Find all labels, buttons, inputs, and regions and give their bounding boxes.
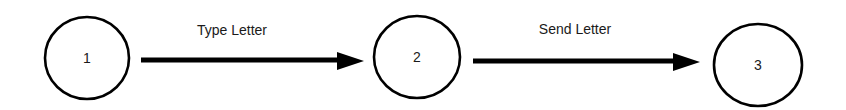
node-2-label: 2 — [413, 49, 421, 65]
node-1: 1 — [45, 17, 129, 99]
edge-label-type-letter: Type Letter — [197, 22, 267, 38]
edge-label-send-letter: Send Letter — [539, 21, 612, 37]
arrow-shaft — [141, 58, 339, 63]
arrowhead-icon — [337, 52, 364, 70]
node-2: 2 — [374, 16, 460, 98]
node-3-label: 3 — [754, 57, 762, 73]
state-diagram: 1 Type Letter 2 Send Letter 3 — [0, 0, 846, 110]
arrow-shaft — [473, 59, 675, 64]
node-3: 3 — [714, 24, 802, 106]
node-1-label: 1 — [83, 50, 91, 66]
arrowhead-icon — [673, 53, 700, 71]
edge-type-letter: Type Letter — [141, 22, 364, 70]
edge-send-letter: Send Letter — [473, 21, 700, 71]
